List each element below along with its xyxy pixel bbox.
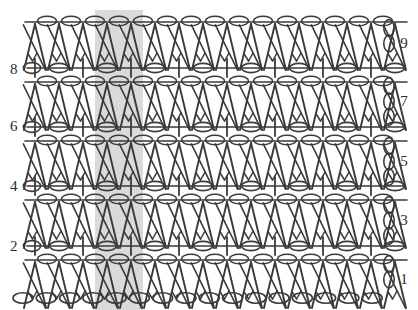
row-number-right-7: 7: [400, 93, 408, 109]
row-number-right-3: 3: [400, 212, 408, 228]
row-number-left-4: 4: [10, 178, 18, 194]
stitch-chart-canvas: 864297531: [0, 0, 418, 310]
crochet-stitch-diagram: 864297531: [0, 0, 418, 310]
row-number-left-6: 6: [10, 118, 18, 134]
row-number-right-5: 5: [400, 153, 408, 169]
row-number-right-1: 1: [400, 271, 408, 287]
row-number-left-2: 2: [10, 238, 18, 254]
row-number-left-8: 8: [10, 61, 18, 77]
row-number-right-9: 9: [400, 35, 408, 51]
